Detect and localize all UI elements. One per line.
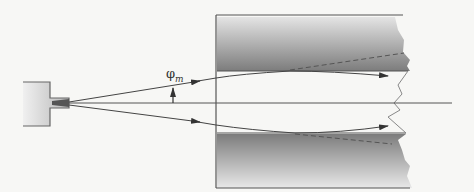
angle-symbol: φ (166, 66, 175, 81)
core-break-edge (388, 71, 408, 133)
waveguide-diagram (0, 0, 474, 192)
angle-label: φm (166, 66, 184, 84)
light-source (23, 82, 69, 126)
angle-subscript: m (175, 74, 184, 84)
upper-cladding (216, 15, 410, 71)
lower-cladding (216, 133, 412, 188)
